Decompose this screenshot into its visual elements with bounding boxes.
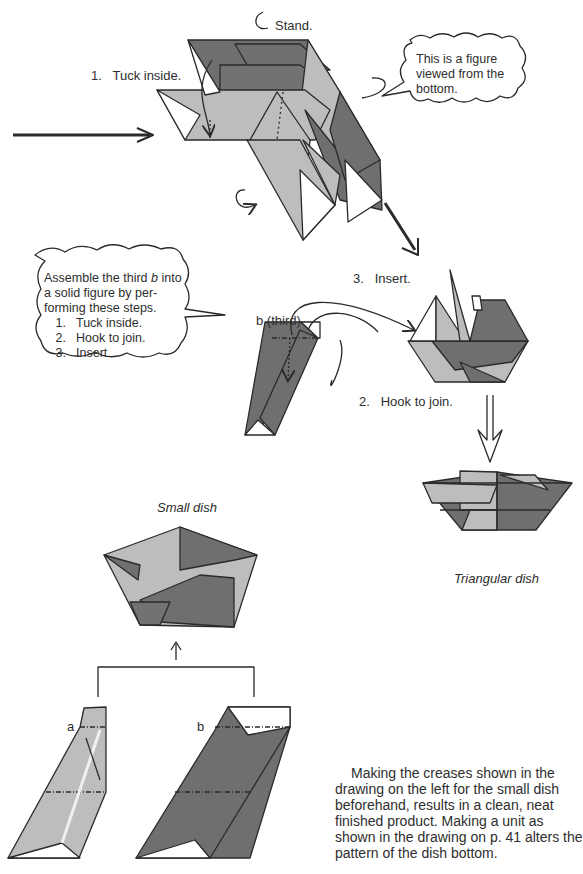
view-note-bubble: This is a figure viewed from the bottom. bbox=[416, 52, 504, 97]
tuck-inside-label: 1. Tuck inside. bbox=[91, 68, 181, 83]
unit-b-label: b bbox=[197, 719, 204, 734]
bubble-line: viewed from the bbox=[416, 67, 504, 82]
intro-line: Assemble the third b into bbox=[44, 271, 182, 286]
hook-label: 2. Hook to join. bbox=[359, 394, 453, 409]
origami-diagram bbox=[0, 0, 583, 874]
intro-line: forming these steps. bbox=[44, 301, 182, 316]
step-item: 3.Insert. bbox=[44, 346, 182, 361]
stand-label: Stand. bbox=[275, 18, 313, 33]
bubble-line: This is a figure bbox=[416, 52, 504, 67]
step-item: 1.Tuck inside. bbox=[44, 316, 182, 331]
bubble-line: bottom. bbox=[416, 82, 504, 97]
intro-line: a solid figure by per- bbox=[44, 286, 182, 301]
crease-note-paragraph: Making the creases shown in the drawing … bbox=[335, 765, 583, 861]
triangular-dish-caption: Triangular dish bbox=[454, 571, 539, 586]
unit-b-third-label: b (third) bbox=[256, 313, 301, 328]
assembly-instructions-bubble: Assemble the third b into a solid figure… bbox=[44, 271, 182, 361]
small-dish-caption: Small dish bbox=[157, 500, 217, 515]
unit-a-label: a bbox=[67, 719, 74, 734]
steps-list: 1.Tuck inside. 2.Hook to join. 3.Insert. bbox=[44, 316, 182, 361]
step-item: 2.Hook to join. bbox=[44, 331, 182, 346]
insert-label: 3. Insert. bbox=[353, 271, 411, 286]
